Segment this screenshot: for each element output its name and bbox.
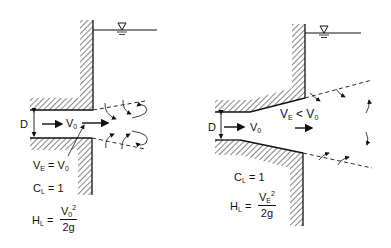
right-diameter-label: D	[208, 122, 216, 133]
left-velocity-relation: VE = V0	[33, 160, 69, 172]
upper-flared-wall-hatch	[215, 24, 305, 112]
water-surface-icon	[118, 23, 126, 30]
right-velocity-label: V0	[250, 122, 261, 134]
right-diagram	[215, 24, 372, 226]
left-velocity-label: V0	[66, 118, 77, 130]
upper-wall-hatch	[30, 20, 93, 110]
left-head-loss-fraction: V02 2g	[60, 204, 77, 233]
right-velocity-relation: VE < V0	[280, 108, 318, 121]
left-head-loss-label: HL =	[32, 215, 53, 227]
left-loss-coefficient: CL = 1	[33, 183, 64, 195]
outlet-loss-diagram	[0, 0, 391, 248]
right-loss-coefficient: CL = 1	[234, 172, 265, 184]
right-head-loss-label: HL =	[230, 201, 251, 213]
water-surface-icon	[320, 26, 328, 33]
left-diameter-label: D	[20, 119, 28, 130]
right-head-loss-fraction: VE2 2g	[258, 190, 276, 219]
